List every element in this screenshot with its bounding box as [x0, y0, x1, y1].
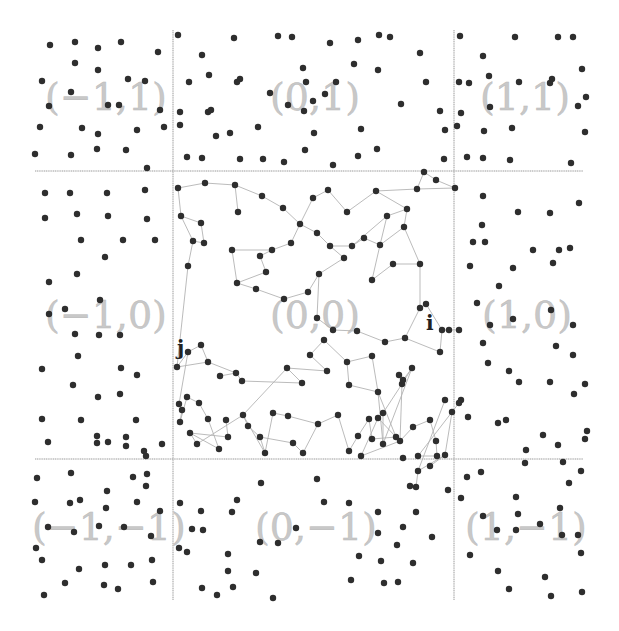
point — [523, 447, 529, 453]
point — [105, 102, 111, 108]
graph-edge — [262, 196, 283, 208]
point — [67, 500, 73, 506]
point — [94, 440, 100, 446]
graph-edge — [405, 308, 420, 338]
graph-edge — [237, 272, 266, 283]
graph-node — [310, 195, 316, 201]
graph-node — [427, 417, 433, 423]
point — [42, 190, 48, 196]
point — [542, 574, 548, 580]
point — [356, 553, 362, 559]
point — [260, 156, 266, 162]
point — [102, 562, 108, 568]
point — [71, 529, 77, 535]
graph-node — [377, 242, 383, 248]
point — [78, 237, 84, 243]
graph-node — [414, 186, 420, 192]
graph-node — [382, 339, 388, 345]
graph-node — [366, 416, 372, 422]
periodic-cell-diagram: (−1,1)(0,1)(1,1)(−1,0)(0,0)(1,0)(−1,−1)(… — [0, 0, 619, 631]
point — [115, 586, 121, 592]
graph-node — [439, 327, 445, 333]
graph-node — [300, 450, 306, 456]
point — [189, 526, 195, 532]
graph-edge — [260, 437, 293, 443]
graph-node — [284, 365, 290, 371]
point — [229, 509, 235, 515]
graph-edge — [338, 415, 349, 451]
point — [548, 593, 554, 599]
point — [547, 379, 553, 385]
graph-edge — [303, 424, 318, 453]
graph-node — [262, 450, 268, 456]
point — [513, 527, 519, 533]
point — [94, 146, 100, 152]
graph-edge — [352, 216, 387, 246]
point — [571, 391, 577, 397]
graph-node — [187, 430, 193, 436]
point — [578, 550, 584, 556]
point — [495, 568, 501, 574]
point — [214, 592, 220, 598]
graph-edge — [440, 330, 442, 352]
point — [101, 582, 107, 588]
point — [97, 297, 103, 303]
point — [105, 439, 111, 445]
point — [464, 154, 470, 160]
node-label-i: i — [426, 311, 434, 335]
point — [570, 322, 576, 328]
graph-edge — [445, 412, 452, 455]
point — [530, 247, 536, 253]
cell-labels: (−1,1)(0,1)(1,1)(−1,0)(0,0)(1,0)(−1,−1)(… — [32, 75, 587, 549]
point — [144, 216, 150, 222]
point — [310, 98, 316, 104]
point — [74, 271, 80, 277]
graph-edge — [376, 191, 407, 209]
graph-node — [324, 368, 330, 374]
point — [208, 107, 214, 113]
point — [566, 480, 572, 486]
point — [39, 557, 45, 563]
point — [374, 146, 380, 152]
graph-edge — [328, 190, 347, 212]
point — [116, 102, 122, 108]
graph-node — [175, 185, 181, 191]
point — [570, 34, 576, 40]
point — [507, 157, 513, 163]
point — [480, 513, 486, 519]
point — [186, 79, 192, 85]
graph-edge — [404, 227, 420, 264]
graph-node — [413, 484, 419, 490]
point — [480, 155, 486, 161]
graph-edge — [242, 381, 302, 383]
point — [95, 131, 101, 137]
graph-node — [417, 305, 423, 311]
point — [303, 79, 309, 85]
point — [515, 209, 521, 215]
graph-node — [234, 280, 240, 286]
graph-node — [400, 377, 406, 383]
graph-node — [235, 209, 241, 215]
graph-node — [305, 289, 311, 295]
point — [70, 382, 76, 388]
point — [68, 470, 74, 476]
point — [579, 66, 585, 72]
point — [133, 417, 139, 423]
point — [45, 439, 51, 445]
point — [143, 483, 149, 489]
point — [553, 343, 559, 349]
cell-label: (1,1) — [480, 75, 570, 119]
point — [39, 366, 45, 372]
graph-node — [427, 463, 433, 469]
graph-node — [380, 410, 386, 416]
point — [134, 499, 140, 505]
graph-node — [240, 412, 246, 418]
point — [454, 123, 460, 129]
graph-node — [270, 410, 276, 416]
graph-node — [442, 397, 448, 403]
point — [516, 379, 522, 385]
graph-node — [375, 389, 381, 395]
point — [458, 495, 464, 501]
point — [103, 505, 109, 511]
point — [95, 45, 101, 51]
